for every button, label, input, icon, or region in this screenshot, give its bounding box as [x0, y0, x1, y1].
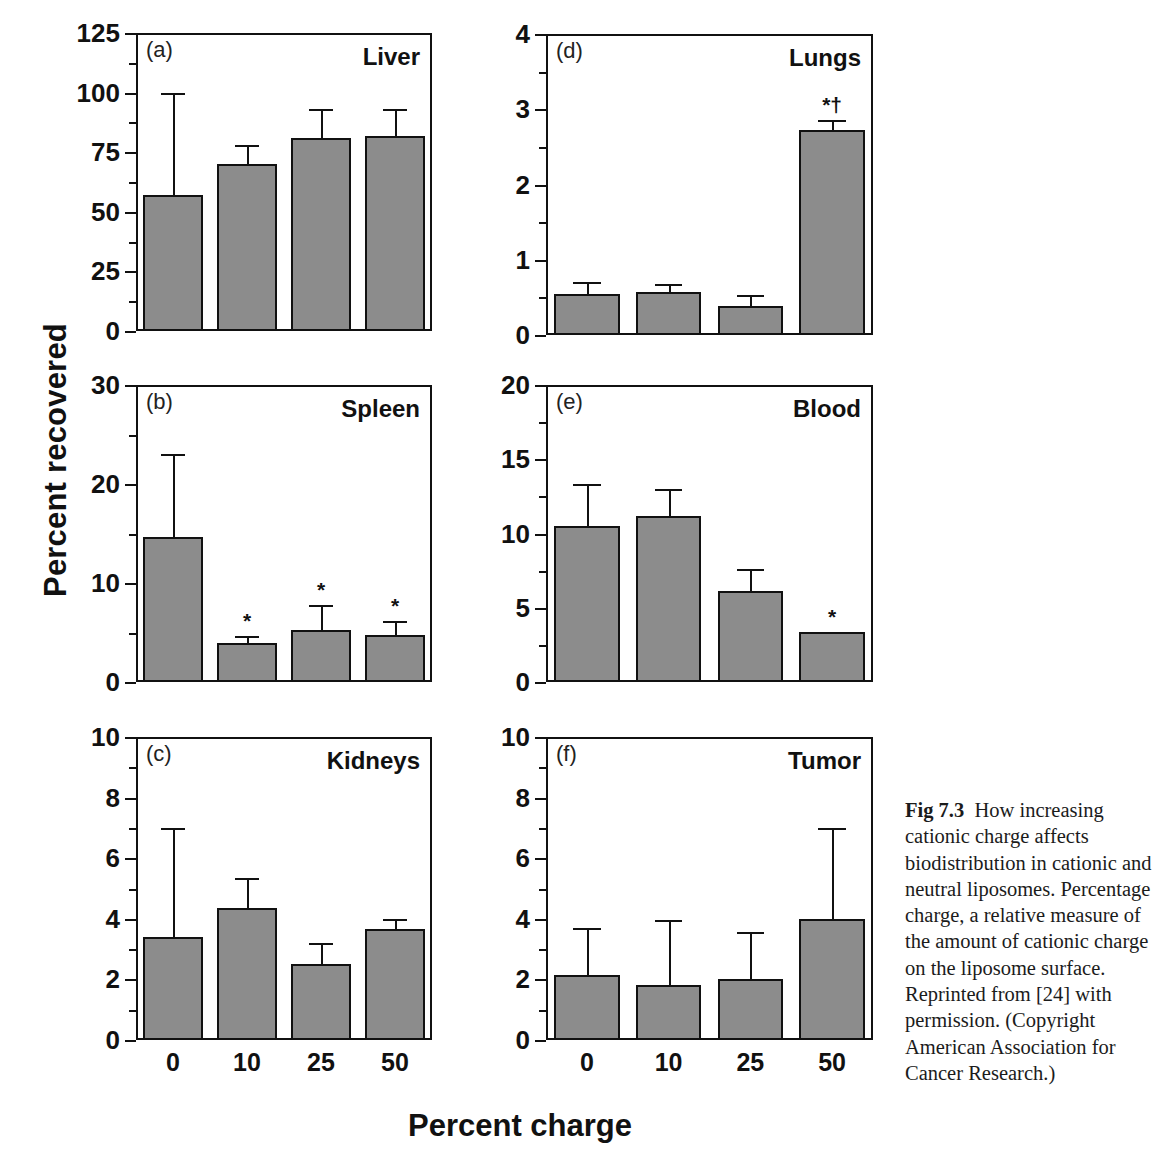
chart-panel-liver: (a)Liver0255075100125	[136, 33, 432, 331]
error-bar-cap	[818, 828, 845, 830]
y-axis-minor-tick	[129, 949, 136, 951]
bar-group	[136, 737, 432, 1040]
bar	[799, 919, 864, 1040]
bar	[291, 138, 350, 331]
y-axis-minor-tick	[539, 767, 546, 769]
y-axis-minor-tick	[539, 1010, 546, 1012]
y-axis-minor-tick	[539, 147, 546, 149]
y-axis-tick-label: 10	[91, 722, 120, 753]
y-axis-tick-label: 100	[77, 77, 120, 108]
error-bar-cap	[235, 145, 260, 147]
error-bar-cap	[655, 489, 682, 491]
error-bar-cap	[818, 120, 845, 122]
y-axis-minor-tick	[129, 633, 136, 635]
error-bar	[247, 145, 249, 164]
x-axis-tick-label: 10	[233, 1048, 261, 1077]
bar	[718, 979, 783, 1040]
error-bar-cap	[309, 109, 334, 111]
y-axis-tick-label: 30	[91, 370, 120, 401]
bar-group: *	[546, 385, 873, 682]
error-bar-cap	[383, 919, 408, 921]
y-axis-tick	[125, 331, 136, 333]
y-axis-tick	[125, 583, 136, 585]
error-bar	[669, 920, 671, 985]
error-bar-cap	[655, 284, 682, 286]
bar	[143, 537, 202, 682]
y-axis-minor-tick	[539, 72, 546, 74]
y-axis-tick	[535, 34, 546, 36]
significance-marker: *	[243, 610, 251, 631]
bar-group	[546, 737, 873, 1040]
y-axis-tick-label: 2	[516, 169, 530, 200]
y-axis-tick-label: 50	[91, 196, 120, 227]
chart-panel-blood: (e)Blood05101520*	[546, 385, 873, 682]
y-axis-tick-label: 0	[516, 1025, 530, 1056]
bar	[365, 136, 424, 331]
y-axis-minor-tick	[539, 828, 546, 830]
bar	[636, 985, 701, 1040]
chart-panel-spleen: (b)Spleen0102030***	[136, 385, 432, 682]
y-axis-tick-label: 0	[106, 1025, 120, 1056]
y-axis-tick	[125, 858, 136, 860]
bar	[365, 635, 424, 682]
y-axis-tick-label: 10	[91, 568, 120, 599]
error-bar	[395, 109, 397, 135]
error-bar	[750, 932, 752, 979]
y-axis-minor-tick	[539, 297, 546, 299]
bar	[799, 632, 864, 682]
x-axis-tick-label: 0	[580, 1048, 594, 1077]
y-axis-minor-tick	[129, 182, 136, 184]
y-axis-minor-tick	[539, 645, 546, 647]
bar	[636, 516, 701, 682]
error-bar-cap	[309, 943, 334, 945]
y-axis-tick-label: 1	[516, 244, 530, 275]
x-axis-tick-label: 25	[736, 1048, 764, 1077]
x-axis-tick-label: 25	[307, 1048, 335, 1077]
bar	[365, 929, 424, 1040]
y-axis-label: Percent recovered	[36, 310, 76, 610]
y-axis-minor-tick	[129, 63, 136, 65]
error-bar	[321, 605, 323, 630]
y-axis-tick	[535, 682, 546, 684]
error-bar-cap	[737, 932, 764, 934]
y-axis-tick	[125, 682, 136, 684]
error-bar-cap	[161, 454, 186, 456]
y-axis-tick-label: 0	[106, 667, 120, 698]
bar	[143, 937, 202, 1040]
y-axis-tick	[125, 212, 136, 214]
y-axis-minor-tick	[539, 422, 546, 424]
error-bar	[173, 454, 175, 537]
caption-label: Fig 7.3	[905, 799, 964, 821]
bar	[718, 591, 783, 682]
error-bar-cap	[573, 282, 600, 284]
error-bar	[247, 878, 249, 908]
error-bar-cap	[309, 605, 334, 607]
bar	[217, 908, 276, 1040]
y-axis-tick-label: 0	[516, 667, 530, 698]
caption-text: How increasing cationic charge affects b…	[905, 799, 1152, 1084]
y-axis-tick	[125, 152, 136, 154]
y-axis-tick	[535, 109, 546, 111]
error-bar	[832, 828, 834, 919]
y-axis-tick	[125, 33, 136, 35]
y-axis-tick	[535, 534, 546, 536]
bar	[718, 306, 783, 335]
y-axis-tick	[125, 919, 136, 921]
bar-group: ***	[136, 385, 432, 682]
y-axis-minor-tick	[129, 1010, 136, 1012]
y-axis-minor-tick	[539, 571, 546, 573]
y-axis-tick-label: 8	[106, 782, 120, 813]
y-axis-tick-label: 0	[106, 316, 120, 347]
error-bar	[173, 828, 175, 937]
y-axis-tick	[535, 979, 546, 981]
x-axis-tick-label: 50	[818, 1048, 846, 1077]
error-bar-cap	[161, 93, 186, 95]
y-axis-tick	[125, 484, 136, 486]
bar	[291, 630, 350, 682]
significance-marker: *	[391, 595, 399, 616]
bar	[799, 130, 864, 335]
x-axis-tick-labels: 0102550	[136, 1040, 432, 1080]
y-axis-tick	[535, 260, 546, 262]
y-axis-tick-label: 20	[501, 370, 530, 401]
y-axis-tick	[125, 93, 136, 95]
